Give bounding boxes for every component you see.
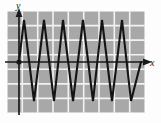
- plot-overlay: [0, 0, 161, 123]
- graph-figure: y x: [0, 0, 161, 123]
- x-axis-label: x: [150, 58, 154, 68]
- triangle-wave-curve: [19, 20, 141, 101]
- y-axis-label: y: [16, 1, 20, 11]
